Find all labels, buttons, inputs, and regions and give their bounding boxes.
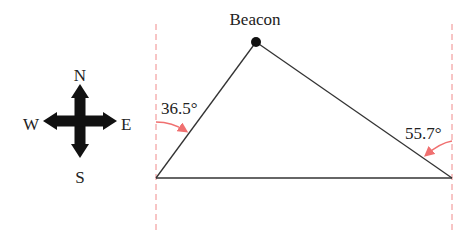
beacon-label: Beacon (230, 10, 281, 29)
right-sightline (256, 42, 452, 178)
triangulation-diagram: N S W E Beacon 36.5° 55.7° (0, 0, 467, 245)
compass-rose-icon (43, 84, 117, 158)
right-angle-arrow-icon (426, 141, 452, 155)
right-angle-label: 55.7° (405, 124, 442, 143)
compass-west-label: W (23, 115, 40, 134)
compass-south-label: S (75, 168, 84, 187)
beacon-point (251, 37, 261, 47)
compass-north-label: N (74, 66, 86, 85)
left-angle-label: 36.5° (161, 99, 198, 118)
compass-east-label: E (121, 115, 131, 134)
left-angle-arrow-icon (156, 122, 186, 131)
